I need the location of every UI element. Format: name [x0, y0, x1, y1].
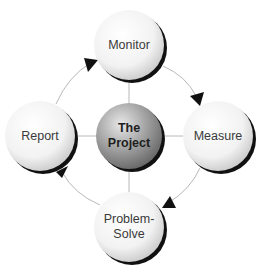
arc-measure-to-problem-solve: [168, 168, 200, 203]
center-label-line2: Project: [108, 136, 150, 151]
node-measure: Measure: [183, 101, 253, 171]
node-label: Measure: [194, 129, 243, 144]
arc-monitor-to-measure: [163, 66, 196, 96]
node-label: Report: [21, 129, 59, 144]
node-center-the-project: The Project: [96, 103, 162, 169]
center-label-line1: The: [108, 121, 150, 136]
node-label: Monitor: [108, 38, 150, 53]
node-problem-solve: Problem- Solve: [94, 192, 164, 262]
node-report: Report: [5, 101, 75, 171]
node-label-line2: Solve: [104, 227, 155, 242]
arc-report-to-monitor: [56, 62, 92, 104]
node-monitor: Monitor: [94, 10, 164, 80]
arrow-head-icon: [162, 196, 176, 208]
node-label-line1: Problem-: [104, 212, 155, 227]
